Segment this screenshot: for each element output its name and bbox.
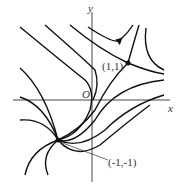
spiral-point — [56, 138, 61, 143]
origin-label: O — [82, 88, 90, 100]
spiral-label: (-1,-1) — [108, 156, 137, 169]
phase-portrait: y x O (1,1) (-1,-1) — [0, 0, 182, 187]
x-axis-label: x — [167, 102, 173, 114]
saddle-label: (1,1) — [102, 60, 123, 73]
y-axis-label: y — [87, 2, 93, 14]
saddle-point — [126, 61, 131, 66]
